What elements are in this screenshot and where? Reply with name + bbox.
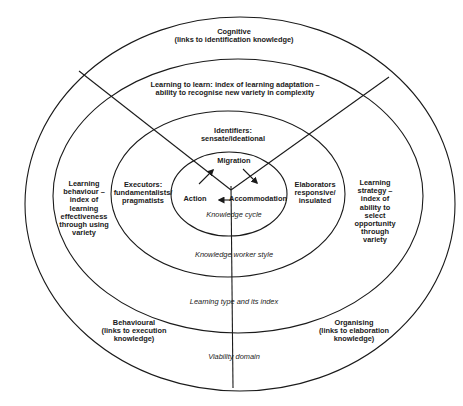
arrow-migration-to-accommodation [243,169,257,183]
arrow-action-to-migration [199,170,213,184]
label-identifiers: Identifiers: sensate/ideational [201,127,265,143]
label-behavioural: Behavioural (links to execution knowledg… [102,319,167,344]
label-elaborators: Elaborators responsive/ insulated [294,181,335,206]
label-accommodation: Accommodation [229,195,287,203]
label-cognitive: Cognitive (links to identification knowl… [174,28,293,44]
ring-label-learning-type: Learning type and its index [190,298,278,306]
knowledge-cycle-diagram: Cognitive (links to identification knowl… [0,0,463,406]
label-learning-strategy: Learning strategy – index of ability to … [354,179,395,245]
label-organising: Organising (links to elaboration knowled… [319,319,389,344]
label-executors: Executors: fundamentalists/ pragmatists [114,181,173,206]
ring-label-viability-domain: Viability domain [208,353,260,361]
label-learning-to-learn: Learning to learn: index of learning ada… [150,81,319,97]
label-migration: Migration [217,157,250,165]
ring-label-knowledge-cycle: Knowledge cycle [206,211,261,219]
label-learning-behaviour: Learning behaviour – index of learning e… [59,180,109,237]
ring-label-knowledge-worker-style: Knowledge worker style [195,251,273,259]
label-action: Action [184,195,207,203]
